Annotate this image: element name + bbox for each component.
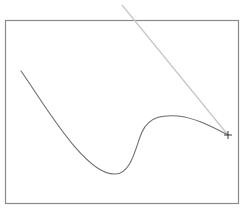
drawing-canvas[interactable]	[0, 0, 247, 215]
artboard-frame	[6, 21, 239, 204]
bezier-path[interactable]	[21, 71, 228, 174]
